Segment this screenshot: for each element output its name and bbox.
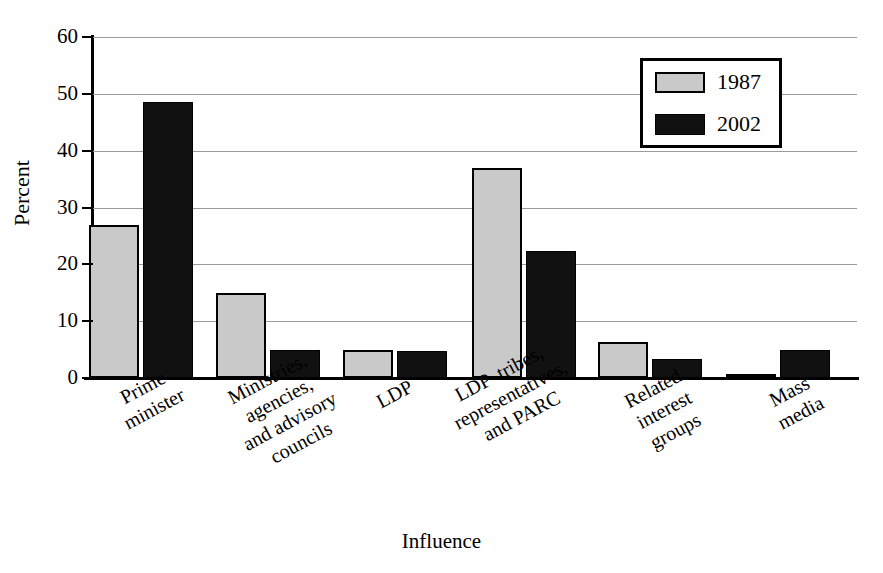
legend: 1987 2002 [640,58,782,148]
legend-label-2002: 2002 [717,111,761,137]
bar-2002-group-3 [397,351,447,378]
y-tick-20 [82,263,93,265]
y-tick-label-40: 40 [36,140,78,161]
bar-1987-group-4 [472,168,522,378]
y-tick-label-10: 10 [36,310,78,331]
bar-1987-group-2 [216,293,266,378]
gridline-40 [92,151,857,152]
x-category-label-3: LDP [372,374,417,413]
y-tick-label-0: 0 [36,367,78,388]
bar-2002-group-1 [143,102,193,378]
bar-2002-group-4 [526,251,576,378]
y-tick-label-50: 50 [36,83,78,104]
black-swatch-icon [655,114,705,135]
x-axis-title: Influence [0,529,883,554]
gridline-0 [92,378,857,379]
bar-1987-group-1 [89,225,139,378]
gray-swatch-icon [655,72,705,93]
bar-1987-group-6 [726,374,776,378]
bar-2002-group-2 [270,350,320,378]
bar-2002-group-6 [780,350,830,378]
y-tick-0 [82,377,93,379]
y-tick-30 [82,207,93,209]
bar-1987-group-3 [343,350,393,378]
y-tick-40 [82,150,93,152]
legend-label-1987: 1987 [717,69,761,95]
bar-1987-group-5 [598,342,648,378]
y-tick-10 [82,320,93,322]
y-tick-label-30: 30 [36,197,78,218]
y-axis-tick-labels: 0102030405060 [0,0,78,573]
y-tick-label-20: 20 [36,253,78,274]
y-tick-60 [82,36,93,38]
bar-2002-group-5 [652,359,702,378]
y-tick-label-60: 60 [36,26,78,47]
y-tick-50 [82,93,93,95]
bar-chart-figure: Percent 0102030405060 Prime ministerMini… [0,0,883,573]
gridline-60 [92,37,857,38]
